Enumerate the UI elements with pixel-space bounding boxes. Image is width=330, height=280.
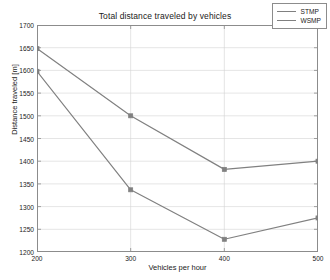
x-tick-label: 300 — [125, 255, 136, 262]
x-tick-label: 400 — [219, 255, 230, 262]
legend-item-stmp[interactable]: STMP — [277, 7, 321, 16]
legend-line-icon — [277, 20, 296, 21]
x-tick-label: 500 — [312, 255, 323, 262]
y-tick-label: 1300 — [19, 203, 34, 210]
y-tick-label: 1650 — [19, 44, 34, 51]
x-tick-label: 200 — [31, 255, 42, 262]
y-tick-label: 1500 — [19, 112, 34, 119]
plot-canvas — [37, 25, 318, 252]
y-axis-label: Distance traveled [m] — [10, 40, 19, 160]
legend-label: STMP — [300, 8, 318, 15]
y-tick-label: 1550 — [19, 90, 34, 97]
chart-figure: Total distance traveled by vehicles Dist… — [0, 0, 330, 280]
legend-label: WSMP — [300, 17, 321, 24]
y-tick-label: 1700 — [19, 22, 34, 29]
y-tick-label: 1600 — [19, 67, 34, 74]
y-tick-label: 1250 — [19, 226, 34, 233]
plot-area: 1200125013001350140014501500155016001650… — [37, 25, 318, 252]
legend-line-icon — [277, 11, 296, 12]
y-tick-label: 1350 — [19, 180, 34, 187]
legend-item-wsmp[interactable]: WSMP — [277, 16, 321, 25]
x-axis-label: Vehicles per hour — [37, 263, 318, 272]
y-tick-label: 1450 — [19, 135, 34, 142]
y-tick-label: 1400 — [19, 158, 34, 165]
chart-legend: STMPWSMP — [272, 3, 327, 29]
